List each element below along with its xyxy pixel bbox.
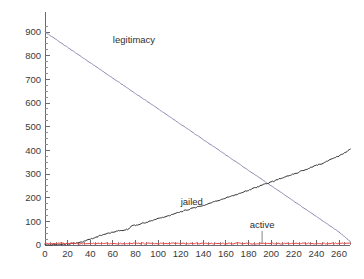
x-axis-tick-labels: 020406080100120140160180200220240260 [42,248,347,259]
y-tick-label: 400 [25,145,41,156]
series-label-jailed: jailed [180,196,203,207]
x-tick-label: 60 [108,248,119,259]
y-tick-label: 700 [25,74,41,85]
x-tick-label: 160 [218,248,234,259]
y-axis-ticks [45,26,50,245]
y-tick-label: 600 [25,97,41,108]
chart-series-labels: legitimacyjailedactive [113,34,275,243]
y-tick-label: 900 [25,26,41,37]
x-tick-label: 240 [308,248,324,259]
line-chart: 0100200300400500600700800900 02040608010… [0,0,364,279]
y-tick-label: 800 [25,50,41,61]
y-axis-tick-labels: 0100200300400500600700800900 [25,26,41,250]
chart-axes [45,12,350,245]
chart-screenshot: 0100200300400500600700800900 02040608010… [0,0,364,279]
y-tick-label: 500 [25,121,41,132]
y-tick-label: 300 [25,168,41,179]
y-tick-label: 0 [36,239,41,250]
series-path-legitimacy [45,32,350,242]
x-tick-label: 80 [130,248,141,259]
x-tick-label: 40 [85,248,96,259]
x-tick-label: 140 [195,248,211,259]
x-tick-label: 200 [263,248,279,259]
x-axis-ticks [45,240,350,245]
x-tick-label: 220 [286,248,302,259]
x-tick-label: 120 [173,248,189,259]
series-path-active [45,243,350,244]
chart-series-group [45,32,350,245]
x-tick-label: 100 [150,248,166,259]
x-tick-label: 0 [42,248,47,259]
y-tick-label: 200 [25,192,41,203]
y-tick-label: 100 [25,216,41,227]
x-tick-label: 260 [331,248,347,259]
series-label-legitimacy: legitimacy [113,34,155,45]
x-tick-label: 180 [241,248,257,259]
series-label-active: active [250,219,275,230]
x-tick-label: 20 [62,248,73,259]
